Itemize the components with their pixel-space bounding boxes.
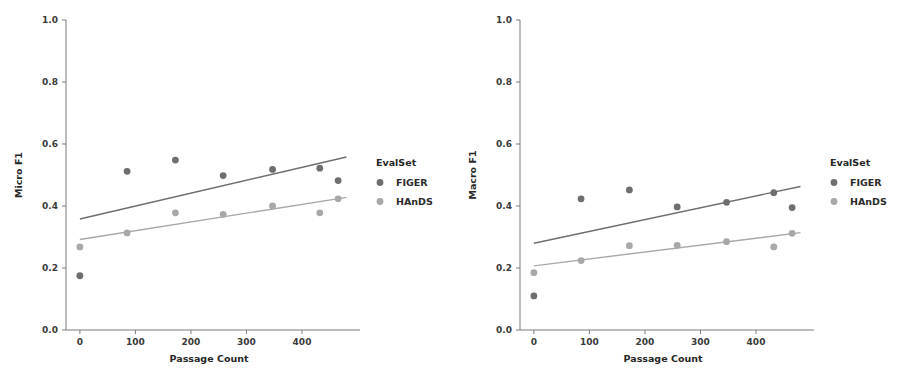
- micro-datapoint-hands: [335, 195, 342, 202]
- micro-datapoint-hands: [124, 230, 131, 237]
- macro-datapoint-figer: [789, 204, 796, 211]
- micro-xtick-label: 100: [126, 337, 145, 347]
- micro-datapoint-figer: [335, 177, 342, 184]
- macro-datapoint-hands: [578, 257, 585, 264]
- macro-ytick-label: 1.0: [496, 15, 512, 25]
- macro-ytick-label: 0.4: [496, 201, 512, 211]
- macro-datapoint-hands: [626, 242, 633, 249]
- micro-xtick-label: 0: [77, 337, 83, 347]
- micro-ytick-label: 0.6: [42, 139, 58, 149]
- micro-xtick-label: 400: [293, 337, 312, 347]
- macro-legend-marker-figer[interactable]: [831, 179, 838, 186]
- macro-datapoint-figer: [723, 199, 730, 206]
- macro-datapoint-figer: [530, 293, 537, 300]
- macro-datapoint-hands: [770, 244, 777, 251]
- micro-f1-scatter-plot: 0.00.20.40.60.81.00100200300400Passage C…: [0, 0, 454, 386]
- macro-trendline-figer: [534, 186, 801, 243]
- macro-ytick-label: 0.6: [496, 139, 512, 149]
- micro-legend-marker-figer[interactable]: [377, 179, 384, 186]
- micro-ytick-label: 0.8: [42, 77, 58, 87]
- macro-ytick-label: 0.2: [496, 263, 512, 273]
- chart-panel-macro-f1: 0.00.20.40.60.81.00100200300400Passage C…: [454, 0, 908, 386]
- micro-datapoint-figer: [124, 168, 131, 175]
- micro-datapoint-hands: [220, 211, 227, 218]
- micro-datapoint-hands: [172, 209, 179, 216]
- macro-datapoint-figer: [626, 186, 633, 193]
- macro-xtick-label: 300: [691, 337, 710, 347]
- micro-y-axis-label: Micro F1: [13, 152, 24, 198]
- macro-datapoint-figer: [674, 204, 681, 211]
- macro-xtick-label: 200: [636, 337, 655, 347]
- macro-datapoint-figer: [770, 189, 777, 196]
- macro-x-axis-label: Passage Count: [624, 353, 703, 364]
- micro-datapoint-hands: [316, 209, 323, 216]
- chart-panel-micro-f1: 0.00.20.40.60.81.00100200300400Passage C…: [0, 0, 454, 386]
- macro-y-axis-label: Macro F1: [467, 150, 478, 199]
- macro-datapoint-hands: [530, 269, 537, 276]
- micro-datapoint-figer: [172, 157, 179, 164]
- macro-f1-scatter-plot: 0.00.20.40.60.81.00100200300400Passage C…: [454, 0, 908, 386]
- micro-datapoint-figer: [269, 166, 276, 173]
- macro-ytick-label: 0.0: [496, 325, 512, 335]
- macro-ytick-label: 0.8: [496, 77, 512, 87]
- micro-plot-group: 0.00.20.40.60.81.00100200300400Passage C…: [13, 15, 433, 364]
- macro-datapoint-hands: [674, 242, 681, 249]
- micro-xtick-label: 300: [237, 337, 256, 347]
- macro-datapoint-figer: [578, 195, 585, 202]
- micro-legend-title: EvalSet: [376, 157, 417, 168]
- micro-xtick-label: 200: [182, 337, 201, 347]
- macro-xtick-label: 0: [531, 337, 537, 347]
- macro-legend-label-figer[interactable]: FIGER: [850, 177, 882, 188]
- macro-legend-marker-hands[interactable]: [831, 198, 838, 205]
- micro-legend-marker-hands[interactable]: [377, 198, 384, 205]
- micro-datapoint-figer: [76, 272, 83, 279]
- micro-legend-label-figer[interactable]: FIGER: [396, 177, 428, 188]
- micro-datapoint-figer: [220, 172, 227, 179]
- macro-trendline-hands: [534, 233, 801, 266]
- macro-xtick-label: 100: [580, 337, 599, 347]
- micro-datapoint-hands: [269, 203, 276, 210]
- micro-datapoint-hands: [76, 244, 83, 251]
- micro-datapoint-figer: [316, 165, 323, 172]
- micro-ytick-label: 0.0: [42, 325, 58, 335]
- macro-plot-group: 0.00.20.40.60.81.00100200300400Passage C…: [467, 15, 887, 364]
- figure-container: 0.00.20.40.60.81.00100200300400Passage C…: [0, 0, 908, 386]
- micro-trendline-hands: [80, 197, 347, 239]
- micro-ytick-label: 1.0: [42, 15, 58, 25]
- macro-datapoint-hands: [789, 230, 796, 237]
- micro-trendline-figer: [80, 157, 347, 219]
- macro-xtick-label: 400: [747, 337, 766, 347]
- micro-x-axis-label: Passage Count: [170, 353, 249, 364]
- micro-legend-label-hands[interactable]: HAnDS: [396, 196, 433, 207]
- micro-ytick-label: 0.2: [42, 263, 58, 273]
- micro-ytick-label: 0.4: [42, 201, 58, 211]
- macro-legend-label-hands[interactable]: HAnDS: [850, 196, 887, 207]
- macro-legend-title: EvalSet: [830, 157, 871, 168]
- macro-datapoint-hands: [723, 238, 730, 245]
